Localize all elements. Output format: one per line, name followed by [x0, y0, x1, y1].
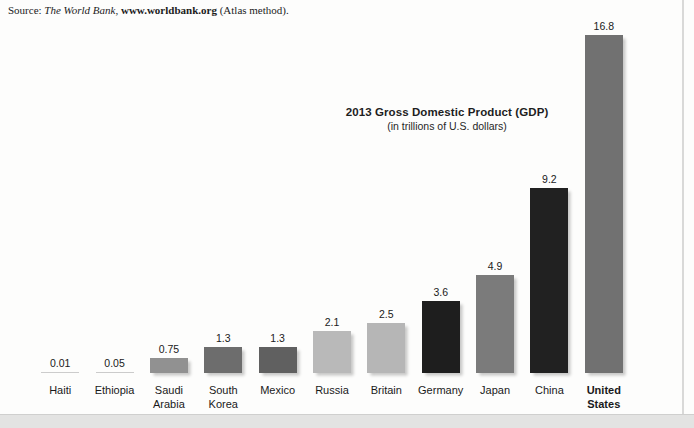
bar-value-label: 0.01: [50, 357, 70, 369]
bar-zone: 16.8: [577, 0, 631, 373]
bar-value-label: 1.3: [270, 332, 285, 344]
bar: [422, 301, 460, 373]
bar-value-label: 1.3: [216, 332, 231, 344]
bar-column-germany: 3.6Germany: [414, 0, 468, 411]
bar: [150, 358, 188, 373]
bar-column-mexico: 1.3Mexico: [250, 0, 304, 411]
bar-zone: 4.9: [468, 0, 522, 373]
bar-value-label: 16.8: [594, 20, 614, 32]
bar-column-haiti: 0.01Haiti: [33, 0, 87, 411]
bar: [41, 372, 79, 374]
bar: [476, 275, 514, 374]
bar: [259, 347, 297, 373]
bar-value-label: 4.9: [488, 260, 503, 272]
bar-value-label: 9.2: [542, 173, 557, 185]
bar-column-russia: 2.1Russia: [305, 0, 359, 411]
bar-category-label: Britain: [371, 384, 402, 398]
bar-column-china: 9.2China: [522, 0, 576, 411]
gdp-bar-chart: 0.01Haiti0.05Ethiopia0.75Saudi Arabia1.3…: [33, 0, 631, 411]
bar-zone: 0.75: [142, 0, 196, 373]
bar-category-label: Japan: [480, 384, 510, 398]
bar: [313, 331, 351, 373]
bar-category-label: Mexico: [260, 384, 295, 398]
bar-value-label: 0.05: [104, 357, 124, 369]
bar-column-united-states: 16.8United States: [577, 0, 631, 411]
bar-category-label: Germany: [418, 384, 463, 398]
bar-category-label: Haiti: [49, 384, 71, 398]
bar-column-saudi-arabia: 0.75Saudi Arabia: [142, 0, 196, 411]
bar-zone: 0.01: [33, 0, 87, 373]
bar: [530, 188, 568, 373]
bar-category-label: United States: [587, 384, 621, 411]
bar: [585, 35, 623, 373]
bar-column-japan: 4.9Japan: [468, 0, 522, 411]
bar-category-label: Ethiopia: [95, 384, 135, 398]
bar-zone: 3.6: [414, 0, 468, 373]
bar-zone: 9.2: [522, 0, 576, 373]
bar-zone: 0.05: [87, 0, 141, 373]
bar-category-label: Russia: [315, 384, 349, 398]
bar-column-south-korea: 1.3South Korea: [196, 0, 250, 411]
bar: [367, 323, 405, 373]
bar-value-label: 2.5: [379, 308, 394, 320]
bar-column-ethiopia: 0.05Ethiopia: [87, 0, 141, 411]
bar: [204, 347, 242, 373]
page-edge-rule: [682, 0, 684, 414]
bar-zone: 2.1: [305, 0, 359, 373]
bar-category-label: China: [535, 384, 564, 398]
bar-value-label: 0.75: [159, 343, 179, 355]
bar-category-label: Saudi Arabia: [153, 384, 185, 411]
bar-zone: 1.3: [196, 0, 250, 373]
bar-value-label: 3.6: [433, 286, 448, 298]
bar-zone: 1.3: [250, 0, 304, 373]
bar-column-britain: 2.5Britain: [359, 0, 413, 411]
bar-category-label: South Korea: [209, 384, 238, 411]
bar-zone: 2.5: [359, 0, 413, 373]
bar: [96, 372, 134, 374]
page-bottom-band: [0, 414, 694, 428]
bar-value-label: 2.1: [325, 316, 340, 328]
